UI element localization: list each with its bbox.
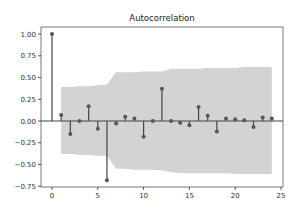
marker-lag-21 (242, 118, 246, 122)
y-tick-label: 0.00 (20, 118, 36, 126)
marker-lag-18 (215, 129, 219, 133)
marker-lag-19 (224, 116, 228, 120)
marker-lag-14 (178, 121, 182, 125)
x-tick-label: 25 (277, 192, 286, 200)
marker-lag-6 (105, 178, 109, 182)
marker-lag-8 (123, 115, 127, 119)
marker-lag-12 (160, 87, 164, 91)
marker-lag-9 (132, 116, 136, 120)
chart-title: Autocorrelation (129, 13, 194, 23)
y-tick-label: 0.50 (20, 74, 36, 82)
marker-lag-10 (142, 135, 146, 139)
marker-lag-7 (114, 122, 118, 126)
y-tick-label: 0.75 (20, 52, 36, 60)
marker-lag-15 (187, 123, 191, 127)
y-tick-label: −0.25 (15, 139, 36, 147)
x-tick-label: 5 (96, 192, 100, 200)
y-tick-label: 0.25 (20, 96, 36, 104)
marker-lag-1 (59, 113, 63, 117)
y-tick-label: −0.50 (15, 161, 36, 169)
marker-lag-23 (261, 116, 265, 120)
marker-lag-0 (50, 32, 54, 36)
marker-lag-22 (252, 125, 256, 129)
marker-lag-5 (96, 127, 100, 131)
x-axis: 0510152025 (50, 187, 286, 200)
x-tick-label: 15 (185, 192, 194, 200)
marker-lag-17 (206, 114, 210, 118)
marker-lag-4 (87, 104, 91, 108)
marker-lag-11 (151, 119, 155, 123)
acf-chart: Autocorrelation 1.000.750.500.250.00−0.2… (0, 0, 301, 216)
marker-lag-3 (77, 119, 81, 123)
y-tick-label: −0.75 (15, 183, 36, 191)
marker-lag-20 (233, 117, 237, 121)
marker-lag-2 (68, 132, 72, 136)
x-tick-label: 10 (139, 192, 148, 200)
marker-lag-13 (169, 119, 173, 123)
y-axis: 1.000.750.500.250.00−0.25−0.50−0.75 (15, 31, 41, 191)
marker-lag-24 (270, 116, 274, 120)
x-tick-label: 20 (231, 192, 240, 200)
y-tick-label: 1.00 (20, 31, 36, 39)
x-tick-label: 0 (50, 192, 54, 200)
marker-lag-16 (197, 105, 201, 109)
